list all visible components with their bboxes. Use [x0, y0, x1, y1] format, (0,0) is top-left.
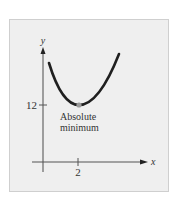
y-axis-arrow-icon — [41, 47, 46, 54]
parabola-curve — [49, 54, 119, 105]
annotation-line2: minimum — [60, 122, 99, 133]
minimum-point — [76, 102, 81, 107]
x-axis-arrow-icon — [140, 160, 148, 165]
x-tick-label: 2 — [75, 166, 81, 178]
chart-svg: y x 12 2 Absolute minimum — [0, 0, 178, 199]
x-axis-label: x — [150, 156, 156, 167]
y-axis-label: y — [40, 35, 46, 46]
annotation-line1: Absolute — [60, 111, 97, 122]
y-tick-label: 12 — [26, 99, 37, 111]
